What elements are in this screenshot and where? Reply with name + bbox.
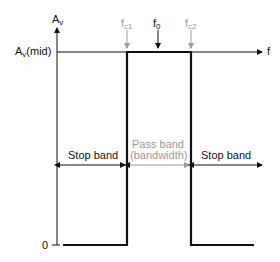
mid-level-label: Av(mid) (15, 46, 51, 59)
f0-label: f0 (153, 18, 161, 31)
bandwidth-label: (bandwidth) (130, 150, 187, 161)
stop-band-left-label: Stop band (68, 150, 118, 161)
y-axis-label: Av (52, 14, 63, 27)
bandpass-diagram (0, 0, 280, 262)
stop-band-right-label: Stop band (201, 150, 251, 161)
x-axis-label: f (267, 46, 270, 57)
fc2-label: fc2 (185, 18, 197, 31)
zero-level-label: 0 (42, 240, 48, 251)
fc1-label: fc1 (121, 18, 133, 31)
